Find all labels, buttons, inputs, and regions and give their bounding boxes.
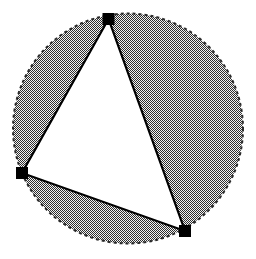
left-vertex-marker bbox=[16, 167, 28, 179]
figure-container bbox=[0, 0, 256, 259]
circle-triangle-diagram bbox=[0, 0, 256, 259]
bottom-right-vertex-marker bbox=[179, 225, 191, 237]
apex-vertex-marker bbox=[103, 13, 115, 25]
